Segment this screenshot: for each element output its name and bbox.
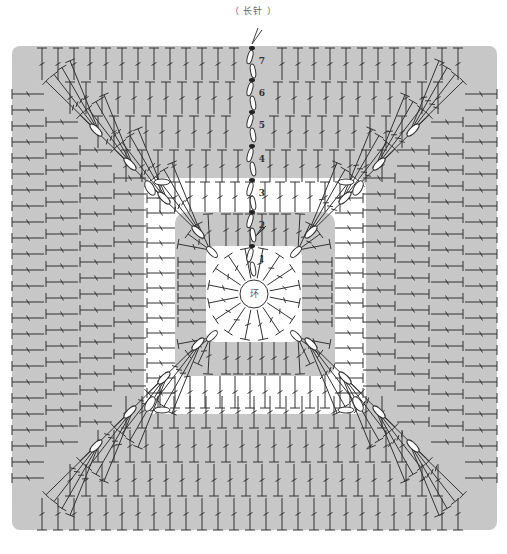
slip-stitch-icon [249,144,255,148]
round-number-6: 6 [259,88,265,98]
slip-stitch-icon [249,78,255,82]
round-number-3: 3 [259,188,265,198]
round-number-5: 5 [259,120,265,130]
chain-stitch-icon [338,407,354,413]
ring-label: 环 [250,289,259,299]
slip-stitch-icon [249,110,255,114]
chain-stitch-icon [154,407,170,413]
slip-stitch-icon [249,244,255,248]
chain-stitch-icon [338,179,354,185]
round-number-2: 2 [259,220,265,230]
chain-stitch-icon [154,179,170,185]
crochet-chart: 环7654321 [0,0,507,554]
scissors-start-icon [252,28,262,44]
slip-stitch-icon [249,178,255,182]
round-number-7: 7 [259,56,265,66]
slip-stitch-icon [249,210,255,214]
round-number-4: 4 [259,154,265,164]
slip-stitch-icon [249,46,255,50]
round-number-1: 1 [259,254,265,264]
